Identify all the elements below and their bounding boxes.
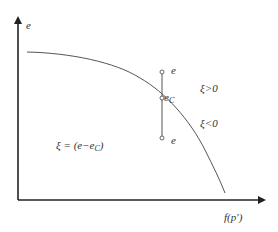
state-top-label: e bbox=[171, 65, 176, 76]
state-parameter-diagram: e f(p′) e eC e ξ>0 ξ<0 ξ = (e−eC) bbox=[0, 0, 278, 232]
critical-state-curve bbox=[27, 52, 225, 193]
equation-main: ξ = (e−e bbox=[56, 139, 94, 151]
equation-close: ) bbox=[100, 139, 104, 151]
state-point-bottom bbox=[160, 136, 164, 140]
critical-void-ratio-label: eC bbox=[164, 92, 174, 105]
state-bottom-label: e bbox=[171, 135, 176, 146]
critical-label-sub: C bbox=[169, 96, 174, 105]
region-above-label: ξ>0 bbox=[200, 83, 218, 94]
diagram-graphics bbox=[0, 0, 278, 232]
y-axis-label: e bbox=[26, 20, 31, 31]
region-below-label: ξ<0 bbox=[200, 118, 218, 129]
x-axis-label: f(p′) bbox=[224, 212, 242, 223]
state-parameter-equation: ξ = (e−eC) bbox=[56, 140, 104, 153]
state-point-top bbox=[160, 70, 164, 74]
